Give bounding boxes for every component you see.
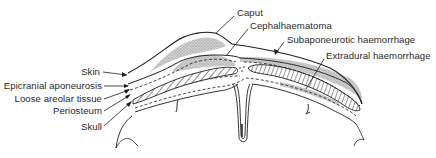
diagram-drawing [0, 0, 436, 158]
scalp-haemorrhage-diagram: Skin Epicranial aponeurosis Loose areola… [0, 0, 436, 158]
label-subaponeurotic-haemorrhage: Subaponeurotic haemorrhage [287, 35, 415, 45]
label-skin: Skin [81, 67, 100, 77]
label-periosteum: Periosteum [53, 106, 102, 116]
label-epicranial-aponeurosis: Epicranial aponeurosis [4, 81, 102, 91]
label-cephalhaematoma: Cephalhaematoma [250, 21, 332, 31]
label-caput: Caput [237, 8, 263, 18]
label-extradural-haemorrhage: Extradural haemorrhage [326, 51, 431, 61]
label-skull: Skull [81, 122, 102, 132]
label-loose-areolar-tissue: Loose areolar tissue [15, 94, 102, 104]
left-skull-bone [133, 67, 238, 104]
